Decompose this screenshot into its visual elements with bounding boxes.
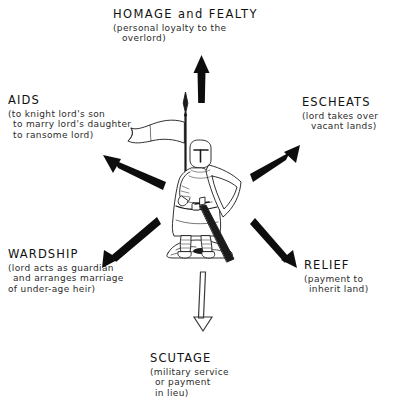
- knight-legs: [178, 236, 215, 258]
- knight-shield: [206, 165, 241, 217]
- knight-figure: [128, 92, 241, 262]
- diagram-artwork: [0, 0, 395, 400]
- arrow-down-scutage: [194, 272, 212, 331]
- label-desc-scutage-line-1: (military service: [150, 367, 229, 378]
- arrow-up-right-escheats: [250, 145, 300, 182]
- knight-banner-flag: [128, 120, 184, 143]
- knight-spear-arm: [178, 172, 190, 206]
- label-escheats: ESCHEATS (lord takes over vacant lands): [302, 96, 378, 132]
- arrow-up-left-aids: [103, 155, 166, 190]
- label-desc-escheats-line-2: vacant lands): [302, 121, 378, 132]
- label-desc-wardship-line-3: of under-age heir): [8, 284, 124, 295]
- knight-sword: [195, 197, 234, 262]
- label-title-scutage: SCUTAGE: [150, 352, 229, 366]
- label-desc-scutage-line-2: or payment: [150, 377, 229, 388]
- label-title-homage: HOMAGE and FEALTY: [113, 8, 258, 22]
- label-desc-escheats: (lord takes over vacant lands): [302, 111, 378, 132]
- label-desc-relief-line-1: (payment to: [304, 274, 369, 285]
- label-desc-wardship: (lord acts as guardian and arranges marr…: [8, 263, 124, 295]
- label-desc-homage-line-1: (personal loyalty to the: [113, 23, 258, 34]
- label-relief: RELIEF (payment to inherit land): [304, 259, 369, 295]
- label-scutage: SCUTAGE (military service or payment in …: [150, 352, 229, 398]
- arrow-group: [102, 55, 300, 331]
- label-desc-wardship-line-1: (lord acts as guardian: [8, 263, 124, 274]
- label-aids: AIDS (to knight lord's son to marry lord…: [8, 94, 131, 140]
- diagram-canvas: HOMAGE and FEALTY (personal loyalty to t…: [0, 0, 395, 400]
- label-title-aids: AIDS: [8, 94, 131, 108]
- label-desc-wardship-line-2: and arranges marriage: [8, 273, 124, 284]
- arrow-up-homage: [194, 55, 210, 103]
- label-title-wardship: WARDSHIP: [8, 248, 124, 262]
- label-desc-aids-line-3: to ransome lord): [8, 130, 131, 141]
- knight-spear: [183, 92, 188, 252]
- label-homage-and-fealty: HOMAGE and FEALTY (personal loyalty to t…: [113, 8, 258, 44]
- label-desc-aids-line-2: to marry lord's daughter: [8, 119, 131, 130]
- label-desc-aids: (to knight lord's son to marry lord's da…: [8, 109, 131, 141]
- knight-mail-detail: [189, 170, 212, 178]
- label-desc-scutage: (military service or payment in lieu): [150, 367, 229, 399]
- label-desc-escheats-line-1: (lord takes over: [302, 111, 378, 122]
- label-wardship: WARDSHIP (lord acts as guardian and arra…: [8, 248, 124, 294]
- label-desc-relief-line-2: inherit land): [304, 284, 369, 295]
- arrow-down-right-relief: [250, 218, 297, 268]
- label-title-relief: RELIEF: [304, 259, 369, 273]
- knight-ground: [167, 240, 233, 258]
- label-title-escheats: ESCHEATS: [302, 96, 378, 110]
- label-desc-homage-line-2: overlord): [113, 33, 258, 44]
- label-desc-homage: (personal loyalty to the overlord): [113, 23, 258, 44]
- knight-belt: [176, 203, 217, 210]
- label-desc-aids-line-1: (to knight lord's son: [8, 109, 131, 120]
- knight-helm: [190, 140, 211, 168]
- knight-surcoat: [172, 168, 220, 236]
- label-desc-scutage-line-3: in lieu): [150, 388, 229, 399]
- label-desc-relief: (payment to inherit land): [304, 274, 369, 295]
